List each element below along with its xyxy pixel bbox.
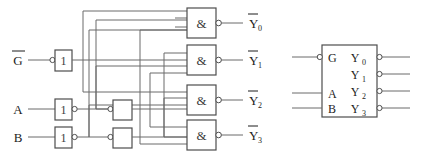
input-label-g: G: [12, 51, 25, 68]
bubble-icon: [50, 57, 55, 62]
bubble-icon: [72, 134, 77, 139]
bus-notb-nand2: [89, 105, 187, 137]
bubble-icon: [216, 132, 222, 138]
nand-2-glyph: &: [196, 93, 206, 108]
block-output-label-y0: Y: [351, 51, 360, 65]
inverter-a: 1: [55, 99, 77, 120]
bubble-icon: [108, 106, 113, 111]
nand-gate-2: &: [187, 85, 243, 115]
bubble-icon: [72, 106, 77, 111]
bubble-icon: [377, 71, 382, 76]
bus-a-nand1: [150, 73, 187, 109]
block-output-label-y3: Y: [351, 102, 360, 116]
output-label-y1-sub: 1: [258, 61, 262, 70]
bubble-icon: [216, 20, 222, 26]
input-label-b: B: [14, 130, 23, 145]
inverter-b-glyph: 1: [61, 131, 67, 145]
bus-a-nand3: [150, 109, 187, 127]
block-output-sub-y1: 1: [362, 75, 366, 84]
inverter-g: 1: [50, 50, 83, 71]
block-output-sub-y0: 0: [362, 58, 366, 67]
input-label-b-text: B: [14, 130, 23, 145]
block-input-label-g: G: [328, 51, 337, 65]
bubble-icon: [317, 54, 322, 59]
input-label-g-text: G: [13, 53, 22, 68]
output-label-y0-sub: 0: [258, 24, 262, 33]
bubble-icon: [377, 105, 382, 110]
block-input-label-a: A: [328, 87, 337, 101]
nand-gate-3: &: [187, 120, 243, 150]
output-label-y2-sub: 2: [258, 101, 262, 110]
bus-b-nand2: [164, 98, 187, 137]
output-label-y1: Y 1: [248, 51, 262, 70]
nand-1-glyph: &: [196, 53, 206, 68]
block-input-label-b: B: [328, 102, 336, 116]
bubble-icon: [108, 134, 113, 139]
bus-notb-top: [89, 30, 187, 137]
input-label-a-text: A: [13, 102, 23, 117]
bus-g-lower: [83, 60, 187, 92]
block-output-label-y2: Y: [351, 85, 360, 99]
bus-nota-top: [96, 20, 187, 109]
inverter-b: 1: [55, 127, 77, 148]
nand-0-glyph: &: [196, 16, 206, 31]
inverter-g-glyph: 1: [61, 54, 67, 68]
bus-nota-nand1: [96, 66, 187, 109]
bubble-icon: [216, 57, 222, 63]
bubble-icon: [377, 88, 382, 93]
nand-gate-1: &: [187, 45, 243, 75]
block-output-sub-y3: 3: [362, 109, 366, 118]
output-label-y0: Y 0: [248, 14, 262, 33]
inverter-a2-body: [113, 100, 132, 120]
nand-3-glyph: &: [196, 128, 206, 143]
logic-diagram-canvas: G A B 1 1 1: [0, 0, 421, 164]
output-label-y3-sub: 3: [258, 136, 262, 145]
block-symbol: G A B Y 0 Y 1 Y 2: [292, 45, 410, 118]
input-label-a: A: [13, 102, 23, 117]
block-output-sub-y2: 2: [362, 92, 366, 101]
inverter-a-glyph: 1: [61, 103, 67, 117]
inverter-b2-body: [113, 128, 132, 148]
inverter-b2: [108, 128, 187, 148]
bubble-icon: [216, 97, 222, 103]
output-label-y2: Y 2: [248, 91, 262, 110]
block-output-label-y1: Y: [351, 68, 360, 82]
nand-gate-0: &: [187, 8, 243, 38]
diagram-svg: G A B 1 1 1: [0, 0, 421, 164]
bubble-icon: [377, 54, 382, 59]
inverter-a2: [108, 100, 150, 120]
output-label-y3: Y 3: [248, 126, 262, 145]
